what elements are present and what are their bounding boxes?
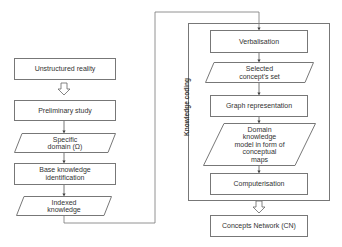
base-knowledge-line2: identification (46, 174, 85, 181)
base-knowledge-line1: Base knowledge (39, 166, 90, 173)
verbalisation-label: Verbalisation (239, 38, 279, 46)
graph-representation-label: Graph representation (226, 102, 292, 110)
domain-model-line4: conceptual (243, 148, 277, 155)
unstructured-reality-label: Unstructured reality (35, 65, 96, 73)
domain-model-line1: Domain (247, 126, 271, 133)
selected-concepts-line2: concept's set (239, 73, 280, 80)
indexed-knowledge-line2: knowledge (47, 206, 80, 213)
indexed-knowledge-line1: Indexed (52, 199, 77, 206)
domain-knowledge-model-shape: Domain knowledge model in form of concep… (203, 123, 316, 166)
domain-model-line5: maps (251, 156, 268, 163)
concepts-network-box: Concepts Network (CN) (210, 215, 308, 237)
block-arrow-down-icon (58, 83, 70, 95)
block-arrow-down-icon (253, 201, 265, 213)
domain-model-line3: model in form of (234, 141, 284, 148)
specific-domain-line2: domain (Ω) (48, 143, 83, 150)
domain-model-line2: knowledge (243, 133, 276, 140)
unstructured-reality-box: Unstructured reality (14, 58, 116, 80)
selected-concepts-shape: Selectedconcept's set (205, 62, 314, 83)
indexed-knowledge-shape: Indexedknowledge (16, 196, 112, 216)
base-knowledge-box: Base knowledgeidentification (14, 163, 116, 185)
concepts-network-label: Concepts Network (CN) (222, 222, 296, 230)
preliminary-study-box: Preliminary study (14, 100, 116, 121)
preliminary-study-label: Preliminary study (38, 107, 92, 115)
computerisation-box: Computerisation (210, 173, 308, 195)
computerisation-label: Computerisation (234, 180, 285, 188)
specific-domain-line1: Specific (53, 136, 78, 143)
graph-representation-box: Graph representation (210, 95, 308, 117)
specific-domain-shape: Specificdomain (Ω) (14, 133, 116, 153)
verbalisation-box: Verbalisation (210, 30, 308, 53)
selected-concepts-line1: Selected (246, 65, 273, 72)
knowledge-coding-label: Knowledge coding (183, 66, 191, 148)
